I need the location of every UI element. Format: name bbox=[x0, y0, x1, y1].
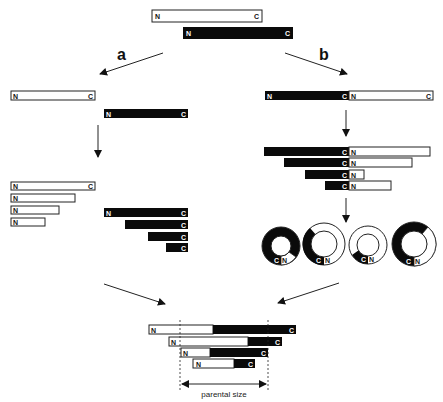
c-terminus-label: C bbox=[274, 257, 279, 264]
n-terminus-label: N bbox=[325, 257, 330, 264]
result-hybrids: N C N C N C N C bbox=[149, 325, 296, 368]
c-terminus-label: C bbox=[361, 256, 366, 263]
n-terminus-label: N bbox=[13, 219, 18, 226]
n-terminus-label: N bbox=[267, 93, 272, 100]
parental-size-label: parental size bbox=[201, 390, 247, 399]
circle-protein-2: C N bbox=[303, 223, 345, 265]
protein-recombination-diagram: N C N C a b N C N C N C N N bbox=[0, 0, 443, 402]
n-terminus-label: N bbox=[351, 183, 356, 190]
n-terminus-label: N bbox=[351, 93, 356, 100]
c-terminus-label: C bbox=[261, 350, 266, 357]
n-terminus-label: N bbox=[369, 256, 374, 263]
c-terminus-label: C bbox=[342, 93, 347, 100]
c-terminus-label: C bbox=[181, 222, 186, 229]
branch-label-a: a bbox=[117, 46, 126, 63]
parent-black-protein: N C bbox=[183, 27, 293, 39]
n-terminus-label: N bbox=[13, 207, 18, 214]
c-terminus-label: C bbox=[181, 234, 186, 241]
a-white-protein: N C bbox=[11, 91, 95, 100]
c-terminus-label: C bbox=[426, 93, 431, 100]
parent-white-protein: N C bbox=[152, 10, 262, 22]
circle-protein-3: C N bbox=[349, 226, 387, 264]
circle-protein-4: C N bbox=[392, 222, 436, 266]
c-terminus-label: C bbox=[316, 257, 321, 264]
a-black-protein: N C bbox=[104, 109, 188, 118]
c-terminus-label: C bbox=[181, 111, 186, 118]
c-terminus-label: C bbox=[254, 13, 259, 20]
c-terminus-label: C bbox=[342, 183, 347, 190]
arrow-converge-right bbox=[278, 283, 339, 303]
n-terminus-label: N bbox=[171, 339, 176, 346]
arrow-converge-left bbox=[104, 284, 165, 304]
n-terminus-label: N bbox=[151, 327, 156, 334]
c-terminus-label: C bbox=[275, 339, 280, 346]
c-terminus-label: C bbox=[285, 30, 290, 37]
n-terminus-label: N bbox=[351, 149, 356, 156]
b-truncations: C N C N C N C N bbox=[264, 147, 430, 190]
n-terminus-label: N bbox=[13, 93, 18, 100]
n-terminus-label: N bbox=[415, 258, 420, 265]
path-a: N C N C N C N N N N C C C bbox=[11, 91, 188, 252]
c-terminus-label: C bbox=[181, 245, 186, 252]
c-terminus-label: C bbox=[342, 149, 347, 156]
n-terminus-label: N bbox=[183, 350, 188, 357]
c-terminus-label: C bbox=[88, 93, 93, 100]
branch-label-b: b bbox=[319, 46, 329, 63]
c-terminus-label: C bbox=[181, 210, 186, 217]
n-terminus-label: N bbox=[106, 111, 111, 118]
a-white-truncations: N C N N N bbox=[11, 182, 95, 226]
c-terminus-label: C bbox=[88, 183, 93, 190]
n-terminus-label: N bbox=[351, 172, 356, 179]
c-terminus-label: C bbox=[342, 172, 347, 179]
circle-protein-1: C N bbox=[262, 227, 300, 265]
path-b: N C N C C N C N C N C N bbox=[262, 91, 436, 266]
b-circular-proteins: C N C N C N bbox=[262, 222, 436, 266]
c-terminus-label: C bbox=[342, 160, 347, 167]
c-terminus-label: C bbox=[406, 258, 411, 265]
arrow-to-b bbox=[285, 53, 347, 74]
n-terminus-label: N bbox=[186, 30, 191, 37]
arrow-to-a bbox=[100, 53, 163, 74]
n-terminus-label: N bbox=[196, 361, 201, 368]
n-terminus-label: N bbox=[282, 257, 287, 264]
c-terminus-label: C bbox=[248, 361, 253, 368]
a-black-truncations: N C C C C bbox=[104, 208, 188, 252]
n-terminus-label: N bbox=[155, 13, 160, 20]
n-terminus-label: N bbox=[13, 183, 18, 190]
c-terminus-label: C bbox=[289, 327, 294, 334]
n-terminus-label: N bbox=[106, 210, 111, 217]
n-terminus-label: N bbox=[351, 160, 356, 167]
n-terminus-label: N bbox=[13, 195, 18, 202]
b-tandem-fusion: N C N C bbox=[265, 91, 433, 100]
